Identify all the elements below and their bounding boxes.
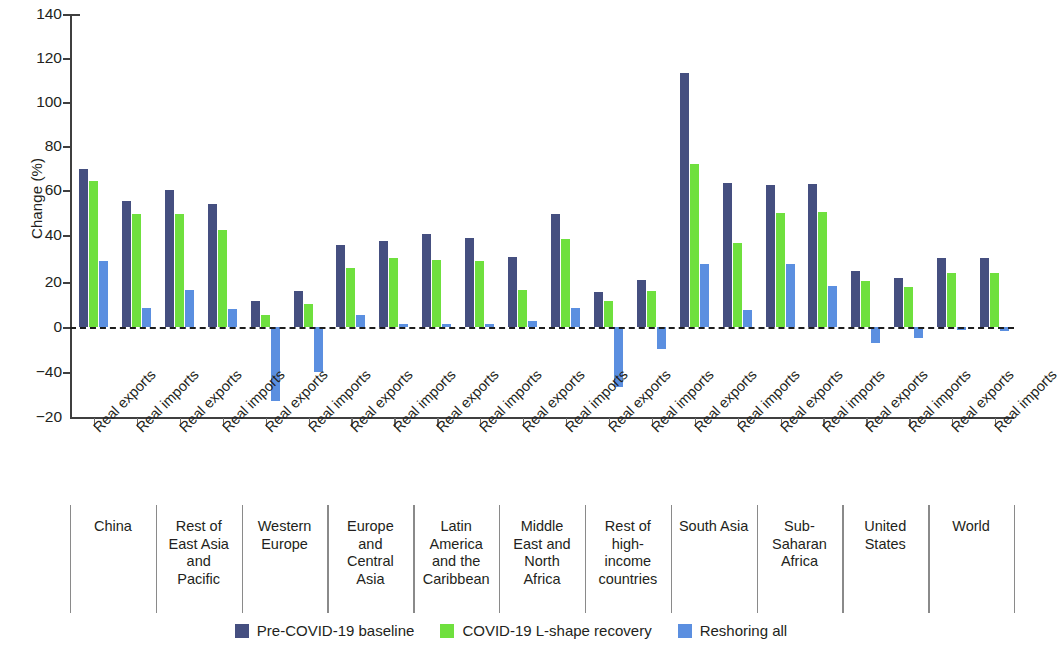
bar (208, 204, 217, 327)
legend-swatch-icon (678, 624, 692, 638)
bar (475, 261, 484, 327)
bar (571, 308, 580, 327)
bar (175, 214, 184, 327)
group-label-line: Middle (499, 518, 585, 536)
group-label: MiddleEast andNorthAfrica (499, 518, 585, 588)
legend-swatch-icon (235, 624, 249, 638)
bar (389, 258, 398, 327)
group-label-line: countries (585, 571, 671, 589)
group-separator (585, 505, 586, 613)
group-label: Rest ofEast AsiaandPacific (156, 518, 242, 588)
y-tick-label: 0 (18, 318, 62, 336)
group-separator (413, 505, 414, 613)
bar (432, 260, 441, 327)
bar (99, 261, 108, 327)
legend-label: Pre-COVID-19 baseline (257, 622, 415, 639)
group-label-line: Saharan (757, 536, 843, 554)
bar-group (413, 14, 499, 418)
bar (132, 214, 141, 327)
plot-area (70, 14, 1014, 418)
group-label-line: Africa (499, 571, 585, 589)
group-separator (928, 505, 929, 613)
bar (122, 201, 131, 327)
group-label-line: and the (413, 553, 499, 571)
group-label-line: North (499, 553, 585, 571)
bar (336, 245, 345, 327)
bar (218, 230, 227, 327)
bar (818, 212, 827, 327)
group-label-line: Western (242, 518, 328, 536)
bar (766, 185, 775, 327)
bar (647, 291, 656, 327)
group-label-line: Latin (413, 518, 499, 536)
bar (165, 190, 174, 327)
bar (690, 164, 699, 327)
legend-item[interactable]: COVID-19 L-shape recovery (440, 622, 651, 639)
bar-group (327, 14, 413, 418)
group-label: LatinAmericaand theCaribbean (413, 518, 499, 588)
bar (346, 268, 355, 327)
bar-cluster (79, 14, 122, 418)
y-tick-label: 80 (18, 137, 62, 155)
group-label-line: China (70, 518, 156, 536)
legend-label: COVID-19 L-shape recovery (462, 622, 651, 639)
group-label-line: East Asia (156, 536, 242, 554)
bar (185, 290, 194, 327)
y-tick-label: 140 (18, 5, 62, 23)
bar (89, 181, 98, 327)
bar (79, 169, 88, 327)
bar (294, 291, 303, 327)
group-label: World (928, 518, 1014, 536)
bar (851, 271, 860, 327)
y-tick-label: 100 (18, 93, 62, 111)
legend-item[interactable]: Pre-COVID-19 baseline (235, 622, 415, 639)
group-label: UnitedStates (842, 518, 928, 553)
group-label-line: America (413, 536, 499, 554)
bar-cluster (851, 14, 894, 418)
group-label-line: Europe (327, 518, 413, 536)
bar-cluster (251, 14, 294, 418)
bar (871, 327, 880, 343)
group-label-line: World (928, 518, 1014, 536)
bar (733, 243, 742, 327)
group-label: EuropeandCentralAsia (327, 518, 413, 588)
group-label-line: Rest of (156, 518, 242, 536)
bar-cluster (165, 14, 208, 418)
group-label-line: and (156, 553, 242, 571)
bar-group (585, 14, 671, 418)
bar-group (671, 14, 757, 418)
group-label-line: Sub- (757, 518, 843, 536)
bar (904, 287, 913, 327)
bar (743, 310, 752, 327)
bar (947, 273, 956, 327)
bar (314, 327, 323, 372)
group-label-line: South Asia (671, 518, 757, 536)
bar-group (842, 14, 928, 418)
group-label-line: Central (327, 553, 413, 571)
bar (680, 73, 689, 327)
group-label: WesternEurope (242, 518, 328, 553)
group-label-line: Africa (757, 553, 843, 571)
group-label-line: and (327, 536, 413, 554)
bar-group (156, 14, 242, 418)
bar (776, 213, 785, 327)
group-label: Rest ofhigh-incomecountries (585, 518, 671, 588)
bar-cluster (766, 14, 809, 418)
group-label: South Asia (671, 518, 757, 536)
y-tick-label: −40 (18, 363, 62, 381)
group-label-line: United (842, 518, 928, 536)
group-separator (757, 505, 758, 613)
group-label-line: Caribbean (413, 571, 499, 589)
bar-cluster (594, 14, 637, 418)
y-tick-label: 40 (18, 226, 62, 244)
bar (828, 286, 837, 327)
bar-cluster (508, 14, 551, 418)
bar (937, 258, 946, 327)
group-separator (842, 505, 843, 613)
y-tick-label: 120 (18, 49, 62, 67)
y-tick-label: 60 (18, 181, 62, 199)
bar (990, 273, 999, 327)
legend-item[interactable]: Reshoring all (678, 622, 788, 639)
bar (251, 301, 260, 327)
